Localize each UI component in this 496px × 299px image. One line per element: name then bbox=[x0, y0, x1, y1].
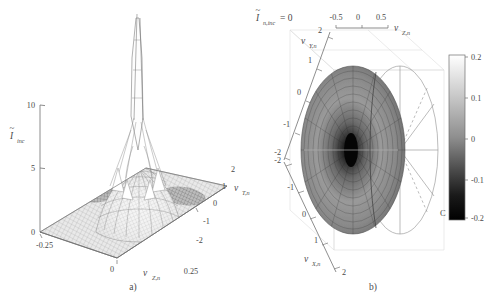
panel-b-x-tick-m2: -2 bbox=[274, 156, 281, 165]
panel-b-x-axis-title-main: ν bbox=[304, 254, 309, 264]
panel-b-annotation-sub: n,inc bbox=[263, 19, 275, 26]
panel-b-x-tick-m1: -1 bbox=[287, 183, 294, 192]
panel-a: 10 5 0 I ~ inc bbox=[0, 0, 248, 299]
panel-b: I ~ n,inc = 0 -0.5 0 0.5 ν Z,n bbox=[248, 0, 496, 299]
colorbar-tick-1: 0.1 bbox=[471, 94, 481, 103]
panel-b-y-axis-title-sub: Y,n bbox=[309, 42, 317, 49]
panel-b-annotation: I ~ n,inc = 0 bbox=[255, 5, 293, 26]
panel-a-y-tick-m1: -1 bbox=[203, 217, 210, 226]
panel-a-z-axis-title-tilde: ~ bbox=[10, 123, 15, 133]
panel-a-z-axis-title: I ~ inc bbox=[9, 123, 25, 144]
panel-a-x-tick-max: 0.25 bbox=[184, 267, 198, 276]
panel-b-y-tick-0: 0 bbox=[297, 88, 301, 97]
panel-b-z-tick-mid: 0 bbox=[356, 13, 360, 22]
panel-a-y-tick-0: 0 bbox=[213, 199, 217, 208]
panel-b-x-tick-2: 2 bbox=[342, 268, 346, 277]
panel-a-y-tick-m2: -2 bbox=[196, 236, 203, 245]
panel-b-colorbar: 0.2 0.1 0 -0.1 -0.2 bbox=[449, 53, 484, 223]
panel-a-y-tick-2: 2 bbox=[231, 165, 235, 174]
panel-b-z-axis-title-main: ν bbox=[394, 23, 399, 33]
panel-a-y-axis-title-main: ν bbox=[234, 183, 239, 193]
panel-b-annotation-tilde: ~ bbox=[256, 5, 261, 15]
panel-b-z-tick-max: 0.5 bbox=[376, 13, 386, 22]
panel-b-z-tick-min: -0.5 bbox=[330, 13, 343, 22]
panel-b-plot: I ~ n,inc = 0 -0.5 0 0.5 ν Z,n bbox=[248, 0, 496, 299]
panel-b-y-tick-m1: -1 bbox=[283, 120, 290, 129]
panel-b-disk-surface bbox=[301, 66, 405, 234]
panel-a-z-tick-5: 5 bbox=[31, 164, 35, 173]
panel-a-peak-spike bbox=[131, 14, 143, 150]
colorbar-tick-4: -0.2 bbox=[471, 214, 484, 223]
panel-b-x-axis-title-sub: X,n bbox=[311, 260, 320, 267]
panel-b-z-axis-title: ν Z,n bbox=[394, 23, 410, 36]
panel-a-y-tick-1: 1 bbox=[222, 182, 226, 191]
panel-a-x-axis-title-main: ν bbox=[143, 268, 148, 278]
panel-a-z-tick-10: 10 bbox=[27, 101, 35, 110]
panel-a-caption: a) bbox=[129, 282, 136, 293]
panel-b-x-tick-0: 0 bbox=[302, 210, 306, 219]
panel-b-x-axis-title: ν X,n bbox=[304, 254, 320, 267]
panel-a-x-axis-title: ν Z,n bbox=[143, 268, 160, 281]
panel-b-curve-label: C bbox=[440, 208, 446, 218]
colorbar-tick-3: -0.1 bbox=[471, 176, 484, 185]
panel-a-z-axis-title-sub: inc bbox=[17, 137, 25, 144]
panel-a-plot: 10 5 0 I ~ inc bbox=[0, 0, 248, 299]
colorbar-tick-0: 0.2 bbox=[471, 53, 481, 62]
panel-b-y-tick-1: 1 bbox=[308, 56, 312, 65]
panel-b-y-axis-title-main: ν bbox=[301, 36, 306, 46]
panel-a-z-tick-0: 0 bbox=[31, 228, 35, 237]
panel-a-x-tick-min: -0.25 bbox=[36, 241, 53, 250]
panel-b-annotation-eq: = 0 bbox=[280, 13, 293, 23]
panel-b-z-axis-title-sub: Z,n bbox=[402, 29, 410, 36]
panel-b-z-axis: -0.5 0 0.5 ν Z,n bbox=[330, 13, 411, 36]
figure-root: 10 5 0 I ~ inc bbox=[0, 0, 496, 299]
panel-a-x-axis-title-sub: Z,n bbox=[152, 274, 160, 281]
colorbar-tick-2: 0 bbox=[471, 135, 475, 144]
panel-a-z-axis: 10 5 0 bbox=[27, 101, 45, 237]
panel-a-x-tick-mid: 0 bbox=[110, 265, 114, 274]
panel-b-y-axis-title: ν Y,n bbox=[301, 36, 317, 49]
panel-b-y-tick-2: 2 bbox=[318, 26, 322, 35]
panel-a-surface bbox=[40, 14, 227, 258]
panel-b-caption: b) bbox=[369, 282, 377, 293]
panel-b-x-tick-1: 1 bbox=[314, 236, 318, 245]
